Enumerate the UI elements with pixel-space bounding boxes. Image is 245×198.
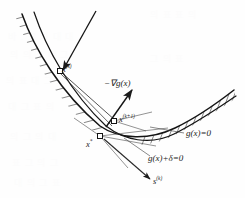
figure-canvas: 의 표 표 의 바 : 그 의 대 대 의 의 그 대 그 그 의 표 의 표 … — [0, 0, 245, 198]
label-optimum-superscript: * — [90, 138, 93, 144]
arrow-search-direction — [104, 139, 150, 179]
label-iterate-k1-superscript: (k+1) — [123, 113, 135, 119]
label-iterate-k-superscript: (k) — [66, 63, 72, 69]
label-search-direction: s(k) — [153, 176, 162, 185]
curve-offset-boundary — [34, 12, 236, 140]
label-constraint-boundary: g(x)=0 — [186, 129, 211, 138]
diagram-svg — [0, 0, 245, 198]
label-search-direction-superscript: (k) — [156, 175, 162, 181]
label-optimum: x* — [86, 139, 92, 148]
label-iterate-k1: x(k+1) — [119, 114, 135, 123]
label-iterate-k: x(k) — [62, 64, 72, 73]
marker-optimum — [98, 134, 103, 139]
arrow-incoming-direction — [63, 11, 96, 70]
label-negative-gradient: −∇g(x) — [104, 79, 131, 88]
label-offset-constraint: g(x)+δ=0 — [148, 154, 183, 163]
marker-iterate-k1 — [112, 119, 117, 124]
